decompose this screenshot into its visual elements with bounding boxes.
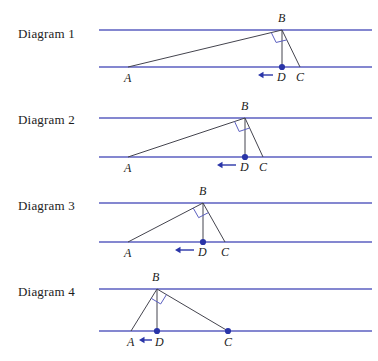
point-marker-d — [200, 239, 206, 245]
vertex-label-a: A — [123, 246, 132, 260]
panel-label-diagram-2: Diagram 2 — [18, 112, 75, 128]
vertex-label-b: B — [152, 270, 160, 284]
motion-arrow-head — [139, 337, 145, 343]
vertex-label-d: D — [276, 70, 286, 84]
panel-label-diagram-3: Diagram 3 — [18, 198, 75, 214]
diagram-stage: Diagram 1ABCDDiagram 2ABCDDiagram 3ABCDD… — [0, 0, 378, 361]
vertex-label-a: A — [123, 161, 132, 175]
right-angle-mark-b — [193, 208, 208, 218]
point-marker-d — [279, 64, 285, 70]
panel-diagram-3: Diagram 3ABCD — [0, 0, 378, 361]
segment-ab — [128, 118, 245, 157]
segment-bc — [203, 203, 225, 242]
segment-bc — [245, 118, 263, 157]
segment-bc — [282, 30, 300, 67]
segment-ab — [131, 289, 157, 331]
right-angle-mark-b — [235, 121, 250, 131]
vertex-label-b: B — [241, 99, 249, 113]
vertex-label-a: A — [123, 71, 132, 85]
panel-diagram-4: Diagram 4ABCD — [0, 0, 378, 361]
vertex-label-b: B — [278, 11, 286, 25]
segment-ab — [128, 30, 282, 67]
vertex-label-c: C — [221, 245, 230, 259]
right-angle-mark-b — [151, 295, 166, 304]
figure-diagram-3: ABCD — [0, 0, 378, 361]
panel-diagram-1: Diagram 1ABCD — [0, 0, 378, 361]
right-angle-mark-b — [271, 33, 287, 43]
panel-diagram-2: Diagram 2ABCD — [0, 0, 378, 361]
panel-label-diagram-4: Diagram 4 — [18, 284, 75, 300]
figure-diagram-1: ABCD — [0, 0, 378, 361]
figure-diagram-4: ABCD — [0, 0, 378, 361]
vertex-label-d: D — [239, 160, 249, 174]
vertex-label-b: B — [199, 184, 207, 198]
motion-arrow-head — [258, 72, 264, 78]
motion-arrow-head — [175, 247, 181, 253]
vertex-label-c: C — [296, 70, 305, 84]
segment-bc — [157, 289, 228, 331]
segment-ab — [128, 203, 203, 242]
point-marker-d — [154, 328, 160, 334]
figure-diagram-2: ABCD — [0, 0, 378, 361]
vertex-label-a: A — [126, 335, 135, 349]
vertex-label-c: C — [259, 160, 268, 174]
vertex-label-d: D — [197, 245, 207, 259]
point-marker-c — [225, 328, 231, 334]
vertex-label-d: D — [154, 335, 164, 349]
vertex-label-c: C — [224, 335, 233, 349]
point-marker-d — [242, 154, 248, 160]
motion-arrow-head — [217, 162, 223, 168]
panel-label-diagram-1: Diagram 1 — [18, 26, 75, 42]
